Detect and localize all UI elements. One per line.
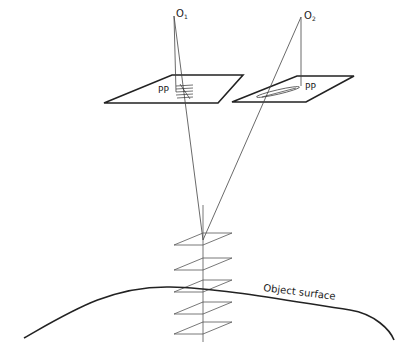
o1-label: O1 <box>176 8 188 20</box>
left-image-plane <box>104 75 243 103</box>
left-ray <box>174 16 203 240</box>
o2-label: O2 <box>304 10 316 22</box>
object-surface-curve <box>24 287 394 340</box>
diagram-canvas: O1 O2 PP PP Object surface <box>0 0 409 355</box>
pp-right-label: PP <box>305 82 316 92</box>
right-hatching <box>256 85 300 99</box>
right-ray <box>203 17 301 240</box>
pp-left-label: PP <box>158 85 169 95</box>
